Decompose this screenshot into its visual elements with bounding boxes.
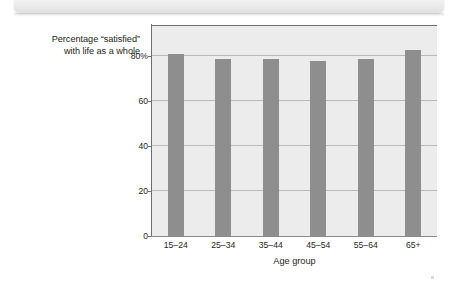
y-axis-line <box>151 24 152 237</box>
x-axis-ticks: 15–2425–3435–4445–5455–6465+ <box>152 240 437 254</box>
bar <box>310 61 326 236</box>
y-tick-label: 60 <box>108 96 148 106</box>
x-axis-title: Age group <box>152 256 437 266</box>
bar <box>358 59 374 236</box>
y-tick-label: 0 <box>108 231 148 241</box>
bar <box>215 59 231 236</box>
bar <box>405 50 421 236</box>
gridline-60 <box>152 100 437 101</box>
x-tick-label: 15–24 <box>153 240 199 250</box>
y-tick-label: 20 <box>108 186 148 196</box>
x-tick-label: 35–44 <box>248 240 294 250</box>
gridline-80 <box>152 55 437 56</box>
gridline-20 <box>152 190 437 191</box>
x-tick-label: 65+ <box>390 240 436 250</box>
bar <box>168 54 184 236</box>
x-axis-line <box>151 236 437 238</box>
chart-figure: Percentage “satisfied” with life as a wh… <box>0 0 452 289</box>
page-banner <box>14 0 444 13</box>
bar <box>263 59 279 236</box>
page-banner-shadow <box>14 13 444 17</box>
plot-area <box>152 25 437 236</box>
gridline-40 <box>152 145 437 146</box>
y-tick-label: 40 <box>108 141 148 151</box>
x-tick-label: 55–64 <box>343 240 389 250</box>
y-axis-ticks: 020406080% <box>106 25 148 236</box>
x-tick-label: 45–54 <box>295 240 341 250</box>
y-tick-label: 80% <box>108 51 148 61</box>
page-artifact <box>431 276 434 279</box>
x-tick-label: 25–34 <box>200 240 246 250</box>
